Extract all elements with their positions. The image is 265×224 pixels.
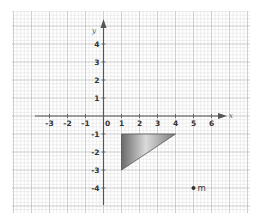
x-tick-label: -2 xyxy=(63,119,71,128)
y-tick-label: -1 xyxy=(91,130,99,139)
y-tick-label: -2 xyxy=(91,148,99,157)
y-tick-label: 3 xyxy=(94,58,99,67)
y-tick-label: 2 xyxy=(94,76,99,85)
x-tick-label: -1 xyxy=(81,119,89,128)
x-tick-label: 6 xyxy=(209,119,214,128)
x-tick-label: -3 xyxy=(45,119,53,128)
y-tick-label: 1 xyxy=(94,94,99,103)
coordinate-plane: -3-2-101234564321-1-2-3-4 m x y xyxy=(0,0,265,224)
y-tick-label: -4 xyxy=(91,184,99,193)
x-axis-label: x xyxy=(229,112,233,120)
grid xyxy=(12,11,250,213)
point-m-marker xyxy=(192,186,196,190)
x-tick-label: 4 xyxy=(173,119,178,128)
y-tick-label: 4 xyxy=(94,40,99,49)
x-tick-label: 2 xyxy=(137,119,142,128)
x-tick-label: 1 xyxy=(119,119,124,128)
x-tick-label: 5 xyxy=(191,119,196,128)
y-tick-label: -3 xyxy=(91,166,99,175)
x-tick-label: 3 xyxy=(155,119,160,128)
x-tick-label: 0 xyxy=(105,119,110,128)
point-m-label: m xyxy=(198,183,206,193)
